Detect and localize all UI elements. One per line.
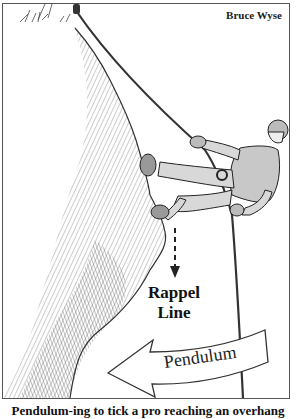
- rappel-line-label: Rappel Line: [144, 283, 204, 323]
- rappel-label-line1: Rappel: [144, 283, 204, 303]
- artist-credit: Bruce Wyse: [226, 9, 282, 21]
- rock-face: [4, 28, 166, 398]
- rappel-line-arrow: [170, 228, 180, 278]
- climber: [140, 120, 288, 220]
- grass: [20, 4, 70, 22]
- figure-caption: Pendulum-ing to tick a pro reaching an o…: [0, 403, 296, 419]
- rappel-label-line2: Line: [144, 303, 204, 323]
